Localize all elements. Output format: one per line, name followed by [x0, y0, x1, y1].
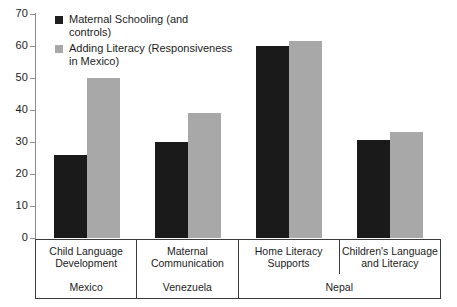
category-label-3: Home Literacy Supports [238, 240, 339, 274]
y-tick-mark [30, 14, 35, 15]
y-tick-label: 60 [4, 40, 28, 51]
y-tick-label: 10 [4, 200, 28, 211]
bar-series1-group1 [54, 155, 87, 238]
y-tick-mark [30, 206, 35, 207]
y-tick-label: 50 [4, 72, 28, 83]
y-tick-label: 30 [4, 136, 28, 147]
category-label-2: Maternal Communication [136, 240, 237, 274]
bar-series1-group3 [256, 46, 289, 238]
y-tick-mark [30, 174, 35, 175]
bar-series2-group3 [289, 41, 322, 238]
country-label-venezuela: Venezuela [136, 274, 237, 299]
y-tick-label: 40 [4, 104, 28, 115]
bar-series1-group2 [155, 142, 188, 238]
y-tick-label: 20 [4, 168, 28, 179]
country-row: MexicoVenezuelaNepal [35, 274, 440, 299]
bar-chart: 010203040506070 Maternal Schooling (and … [0, 0, 457, 307]
bar-series2-group4 [390, 132, 423, 238]
y-tick-mark [30, 46, 35, 47]
country-label-mexico: Mexico [35, 274, 136, 299]
y-tick-mark [30, 142, 35, 143]
bar-series1-group4 [357, 140, 390, 238]
bar-series2-group1 [87, 78, 120, 238]
country-label-nepal: Nepal [238, 274, 441, 299]
plot-area [36, 14, 441, 238]
category-label-1: Child Language Development [35, 240, 136, 274]
y-tick-mark [30, 110, 35, 111]
category-label-4: Children's Language and Literacy [339, 240, 440, 274]
y-tick-mark [30, 78, 35, 79]
bar-series2-group2 [188, 113, 221, 238]
y-tick-label: 70 [4, 8, 28, 19]
category-label-table: Child Language DevelopmentMaternal Commu… [35, 239, 441, 299]
y-tick-label: 0 [4, 232, 28, 243]
category-row: Child Language DevelopmentMaternal Commu… [35, 240, 440, 274]
